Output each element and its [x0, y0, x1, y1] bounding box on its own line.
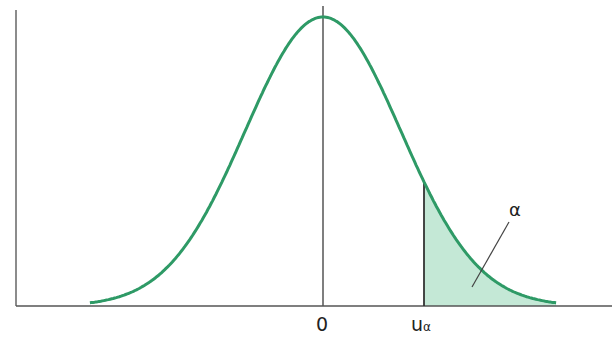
- alpha-annotation: α: [509, 199, 521, 220]
- alpha-tail-area: [424, 182, 556, 306]
- normal-distribution-chart: [0, 0, 614, 338]
- u-subscript: α: [423, 320, 431, 334]
- tick-label-zero: 0: [316, 313, 328, 335]
- tick-label-u-alpha: uα: [411, 313, 431, 335]
- u-label: u: [411, 313, 423, 335]
